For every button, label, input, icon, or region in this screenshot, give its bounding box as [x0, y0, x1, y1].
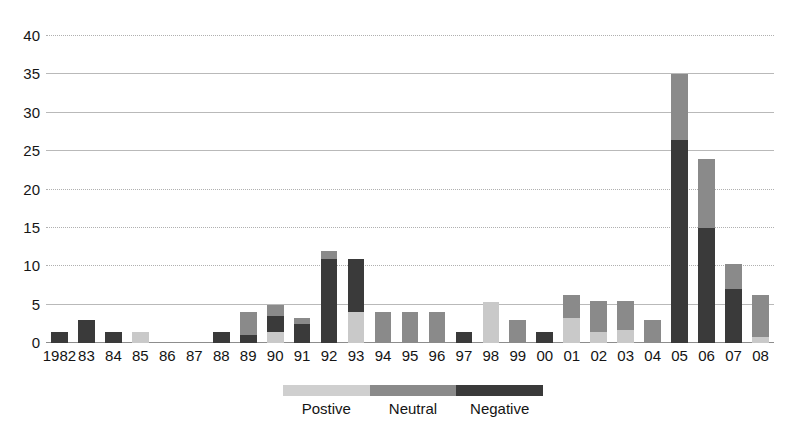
bar-slot: [370, 36, 397, 343]
y-tick-label-15: 15: [6, 220, 40, 235]
bars-group: [46, 36, 774, 343]
bar-segment-neutral: [321, 251, 338, 259]
y-tick-label-0: 0: [6, 335, 40, 350]
bar-segment-negative: [294, 324, 311, 343]
x-axis: 1982838485868788899091929394959697989900…: [46, 346, 774, 368]
bar-segment-positive: [132, 332, 149, 344]
bar-slot: [46, 36, 73, 343]
legend-swatches: [283, 385, 543, 396]
bar-segment-negative: [105, 332, 122, 344]
bar-slot: [235, 36, 262, 343]
bar-slot: [558, 36, 585, 343]
bar-slot: [720, 36, 747, 343]
bar-slot: [504, 36, 531, 343]
bar-slot: [73, 36, 100, 343]
bar-89: [240, 312, 257, 343]
bar-99: [509, 320, 526, 343]
bar-segment-negative: [78, 320, 95, 343]
bar-96: [429, 312, 446, 343]
bar-segment-neutral: [267, 305, 284, 317]
bar-segment-neutral: [429, 312, 446, 343]
bar-94: [375, 312, 392, 343]
bar-95: [402, 312, 419, 343]
bar-slot: [154, 36, 181, 343]
bar-segment-neutral: [644, 320, 661, 343]
bar-07: [725, 264, 742, 343]
bar-segment-negative: [348, 259, 365, 313]
bar-85: [132, 332, 149, 344]
bar-05: [671, 74, 688, 343]
bar-04: [644, 320, 661, 343]
bar-1982: [51, 332, 68, 344]
bar-slot: [693, 36, 720, 343]
legend-label-negative: Negative: [456, 400, 543, 418]
bar-slot: [612, 36, 639, 343]
bar-segment-negative: [725, 289, 742, 343]
legend-swatch-negative: [456, 385, 543, 396]
y-tick-label-10: 10: [6, 258, 40, 273]
bar-93: [348, 259, 365, 343]
legend-swatch-positive: [283, 385, 370, 396]
bar-83: [78, 320, 95, 343]
bar-slot: [316, 36, 343, 343]
y-tick-label-40: 40: [6, 28, 40, 43]
bar-segment-neutral: [402, 312, 419, 343]
bar-slot: [289, 36, 316, 343]
y-tick-label-35: 35: [6, 66, 40, 81]
bar-segment-positive: [752, 337, 769, 343]
bar-segment-negative: [456, 332, 473, 344]
bar-segment-negative: [240, 335, 257, 343]
bar-segment-positive: [563, 318, 580, 343]
bar-slot: [747, 36, 774, 343]
bar-slot: [397, 36, 424, 343]
bar-slot: [477, 36, 504, 343]
y-tick-label-5: 5: [6, 297, 40, 312]
bar-slot: [450, 36, 477, 343]
legend-label-positive: Postive: [283, 400, 370, 418]
bar-slot: [208, 36, 235, 343]
bar-segment-positive: [267, 332, 284, 344]
bar-segment-neutral: [725, 264, 742, 289]
bar-segment-positive: [590, 332, 607, 344]
bar-slot: [127, 36, 154, 343]
bar-segment-positive: [483, 302, 500, 343]
y-tick-label-20: 20: [6, 182, 40, 197]
stacked-bar-chart: 0510152025303540 19828384858687888990919…: [0, 0, 786, 428]
bar-slot: [423, 36, 450, 343]
bar-08: [752, 295, 769, 343]
bar-90: [267, 305, 284, 343]
bar-slot: [343, 36, 370, 343]
x-tick-label-08: 08: [741, 346, 780, 366]
bar-segment-negative: [671, 140, 688, 343]
bar-slot: [100, 36, 127, 343]
legend: PostiveNeutralNegative: [283, 385, 543, 418]
bar-slot: [181, 36, 208, 343]
bar-segment-positive: [617, 330, 634, 343]
bar-segment-neutral: [509, 320, 526, 343]
bar-slot: [585, 36, 612, 343]
legend-swatch-neutral: [370, 385, 457, 396]
bar-segment-negative: [267, 316, 284, 331]
bar-slot: [531, 36, 558, 343]
y-tick-label-25: 25: [6, 143, 40, 158]
bar-segment-neutral: [671, 74, 688, 139]
bar-03: [617, 301, 634, 343]
legend-labels: PostiveNeutralNegative: [283, 400, 543, 418]
bar-segment-negative: [698, 228, 715, 343]
bar-06: [698, 159, 715, 343]
bar-slot: [639, 36, 666, 343]
bar-segment-negative: [536, 332, 553, 344]
bar-segment-positive: [348, 312, 365, 343]
legend-label-neutral: Neutral: [370, 400, 457, 418]
bar-segment-neutral: [375, 312, 392, 343]
bar-slot: [666, 36, 693, 343]
y-tick-label-30: 30: [6, 105, 40, 120]
bar-84: [105, 332, 122, 344]
bar-segment-neutral: [563, 295, 580, 319]
bar-segment-negative: [213, 332, 230, 344]
bar-91: [294, 318, 311, 343]
bar-segment-neutral: [617, 301, 634, 330]
bar-88: [213, 332, 230, 344]
bar-02: [590, 301, 607, 343]
bar-97: [456, 332, 473, 344]
